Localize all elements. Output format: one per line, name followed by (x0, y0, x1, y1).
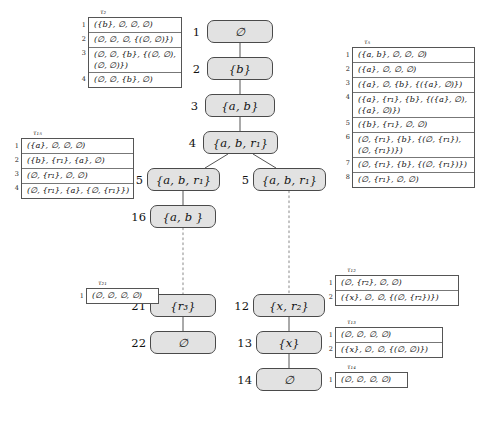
table-row[interactable]: (∅, ∅, {b}, {(∅, ∅), (∅, ∅)}) (89, 48, 181, 73)
table-tau2-rownum-1: 1 (79, 21, 86, 29)
tree-node-14-id: 14 (234, 373, 252, 387)
table-tau2-rownum-2: 2 (79, 35, 86, 43)
table-row[interactable]: (∅, ∅, ∅, ∅) (336, 328, 442, 343)
table-row[interactable]: (∅, ∅, ∅, ∅) (87, 289, 158, 303)
edge-4-5 (253, 154, 276, 168)
table-tau5-rownum-2: 2 (343, 65, 350, 73)
tree-node-4[interactable]: {a, b, r₁} (203, 131, 278, 154)
table-row[interactable]: ({a}, {r₁}, {b}, {({a}, ∅), ({a}, ∅)}) (353, 93, 474, 118)
table-tau12-rownum-2: 2 (326, 293, 333, 301)
table-tau5-cell-2: ({a}, ∅, ∅, ∅) (353, 63, 474, 77)
table-tau12: τ₁₂ 1 2 (∅, {r₂}, ∅, ∅) ({x}, ∅, ∅, {(∅,… (335, 275, 459, 306)
tree-node-15[interactable]: {a, b, r₁} (147, 168, 220, 191)
tree-node-12-id: 12 (231, 299, 249, 313)
table-tau14-label: τ₁₄ (347, 363, 356, 371)
tree-node-16[interactable]: {a, b } (150, 205, 216, 228)
table-row[interactable]: (∅, ∅, ∅, ∅) (336, 373, 407, 387)
table-tau21-label: τ₂₁ (98, 279, 107, 287)
table-tau5: τ₅ 1 2 3 4 5 6 7 8 ({a, b}, ∅, ∅, ∅) ({a… (352, 47, 475, 188)
table-row[interactable]: (∅, {r₁}, ∅, ∅) (353, 173, 474, 187)
table-tau5-rownum-8: 8 (343, 173, 350, 181)
table-tau5-cell-6-line1: (∅, {r₁}, {b}, {(∅, {r₁}), (358, 134, 469, 145)
table-tau12-cell-1: (∅, {r₂}, ∅, ∅) (336, 276, 458, 290)
table-tau5-cell-7: (∅, {r₁}, {b}, {(∅, {r₁})}) (353, 158, 474, 172)
tree-node-13-id: 13 (234, 336, 252, 350)
table-tau5-rownum-5: 5 (343, 119, 350, 127)
tree-node-22[interactable]: ∅ (150, 331, 216, 354)
table-tau5-cell-3: ({a}, ∅, {b}, {({a}, ∅)}) (353, 78, 474, 92)
table-row[interactable]: ({b}, ∅, ∅, ∅) (89, 18, 181, 33)
table-tau21: τ₂₁ 1 (∅, ∅, ∅, ∅) (86, 288, 159, 304)
table-row[interactable]: (∅, {r₁}, {b}, {(∅, {r₁}), (∅, {r₁})}) (353, 133, 474, 158)
table-tau21-cell-1: (∅, ∅, ∅, ∅) (87, 289, 158, 303)
tree-node-1[interactable]: ∅ (207, 20, 273, 43)
table-tau14: τ₁₄ 1 (∅, ∅, ∅, ∅) (335, 372, 408, 388)
table-tau12-label: τ₁₂ (347, 266, 356, 274)
tree-node-16-label: {a, b } (162, 210, 203, 224)
table-tau13-cell-2: ({x}, ∅, ∅, {(∅, ∅)}) (336, 343, 442, 357)
table-tau5-rownum-3: 3 (343, 79, 350, 87)
table-row[interactable]: (∅, {r₁}, {a}, {∅, {r₁}}) (22, 184, 133, 198)
tree-node-12[interactable]: {x, r₂} (253, 294, 325, 317)
tree-node-15-label: {a, b, r₁} (156, 173, 212, 187)
table-tau15-cell-4: (∅, {r₁}, {a}, {∅, {r₁}}) (22, 184, 134, 198)
tree-node-22-id: 22 (128, 336, 146, 350)
table-tau5-cell-6: (∅, {r₁}, {b}, {(∅, {r₁}), (∅, {r₁})}) (353, 133, 474, 157)
table-tau2-rownum-4: 4 (79, 75, 86, 83)
table-tau5-rownum-1: 1 (343, 51, 350, 59)
table-tau14-rownum-1: 1 (326, 376, 333, 384)
table-row[interactable]: ({b}, {r₁}, ∅, ∅) (353, 118, 474, 133)
table-row[interactable]: ({a}, ∅, {b}, {({a}, ∅)}) (353, 78, 474, 93)
table-tau2-cell-3-line2: (∅, ∅)}) (94, 60, 176, 71)
table-tau5-cell-5: ({b}, {r₁}, ∅, ∅) (353, 118, 474, 132)
table-row[interactable]: ({a}, ∅, ∅, ∅) (353, 63, 474, 78)
table-row[interactable]: (∅, {r₂}, ∅, ∅) (336, 276, 458, 291)
tree-node-2[interactable]: {b} (207, 57, 273, 80)
table-tau13-rownum-1: 1 (326, 331, 333, 339)
tree-node-13[interactable]: {x} (256, 331, 322, 354)
table-tau5-cell-1: ({a, b}, ∅, ∅, ∅) (353, 48, 474, 62)
table-tau15-cell-1: ({a}, ∅, ∅, ∅) (22, 139, 133, 153)
tree-node-5-id: 5 (236, 173, 249, 187)
table-tau14-cell-1: (∅, ∅, ∅, ∅) (336, 373, 407, 387)
tree-node-14[interactable]: ∅ (256, 368, 322, 391)
table-tau2-cell-2: (∅, ∅, ∅, {(∅, ∅)}) (89, 33, 181, 47)
table-tau15: τ₁₅ 1 2 3 4 ({a}, ∅, ∅, ∅) ({b}, {r₁}, {… (21, 138, 134, 199)
table-row[interactable]: ({x}, ∅, ∅, {(∅, ∅)}) (336, 343, 442, 357)
tree-node-14-label: ∅ (284, 373, 294, 387)
table-row[interactable]: ({a, b}, ∅, ∅, ∅) (353, 48, 474, 63)
table-tau2-rownum-3: 3 (79, 49, 86, 57)
table-tau5-cell-6-line2: (∅, {r₁})}) (358, 145, 469, 156)
tree-node-13-label: {x} (278, 336, 300, 350)
table-tau5-rownum-6: 6 (343, 133, 350, 141)
tree-node-3[interactable]: {a, b} (205, 94, 275, 117)
table-tau5-rownum-4: 4 (343, 93, 350, 101)
table-tau5-cell-8: (∅, {r₁}, ∅, ∅) (353, 173, 474, 187)
table-tau2-label: τ₂ (100, 8, 106, 16)
table-tau5-label: τ₅ (364, 38, 370, 46)
table-tau15-label: τ₁₅ (33, 129, 42, 137)
table-tau15-rownum-4: 4 (12, 184, 19, 192)
table-row[interactable]: (∅, {r₁}, ∅, ∅) (22, 169, 133, 184)
table-row[interactable]: ({x}, ∅, ∅, {(∅, {r₂})}) (336, 291, 458, 305)
tree-node-5[interactable]: {a, b, r₁} (253, 168, 326, 191)
table-tau5-cell-4-line1: ({a}, {r₁}, {b}, {({a}, ∅), (358, 94, 469, 105)
table-tau13-rownum-2: 2 (326, 345, 333, 353)
table-tau2-cell-1: ({b}, ∅, ∅, ∅) (89, 18, 181, 32)
table-tau5-cell-4: ({a}, {r₁}, {b}, {({a}, ∅), ({a}, ∅)}) (353, 93, 474, 117)
tree-node-2-label: {b} (229, 62, 252, 76)
table-tau5-rownum-7: 7 (343, 159, 350, 167)
table-row[interactable]: ({a}, ∅, ∅, ∅) (22, 139, 133, 154)
tree-node-12-label: {x, r₂} (269, 299, 309, 313)
tree-node-21[interactable]: {r₃} (150, 294, 216, 317)
table-tau15-rownum-1: 1 (12, 142, 19, 150)
tree-node-1-id: 1 (186, 25, 200, 39)
tree-node-22-label: ∅ (178, 336, 188, 350)
table-row[interactable]: (∅, ∅, ∅, {(∅, ∅)}) (89, 33, 181, 48)
table-row[interactable]: (∅, ∅, {b}, ∅) (89, 73, 181, 87)
table-tau15-rownum-3: 3 (12, 170, 19, 178)
table-tau13: τ₁₃ 1 2 (∅, ∅, ∅, ∅) ({x}, ∅, ∅, {(∅, ∅)… (335, 327, 443, 358)
table-tau2: τ₂ 1 2 3 4 ({b}, ∅, ∅, ∅) (∅, ∅, ∅, {(∅,… (88, 17, 182, 88)
table-row[interactable]: ({b}, {r₁}, {a}, ∅) (22, 154, 133, 169)
table-row[interactable]: (∅, {r₁}, {b}, {(∅, {r₁})}) (353, 158, 474, 173)
